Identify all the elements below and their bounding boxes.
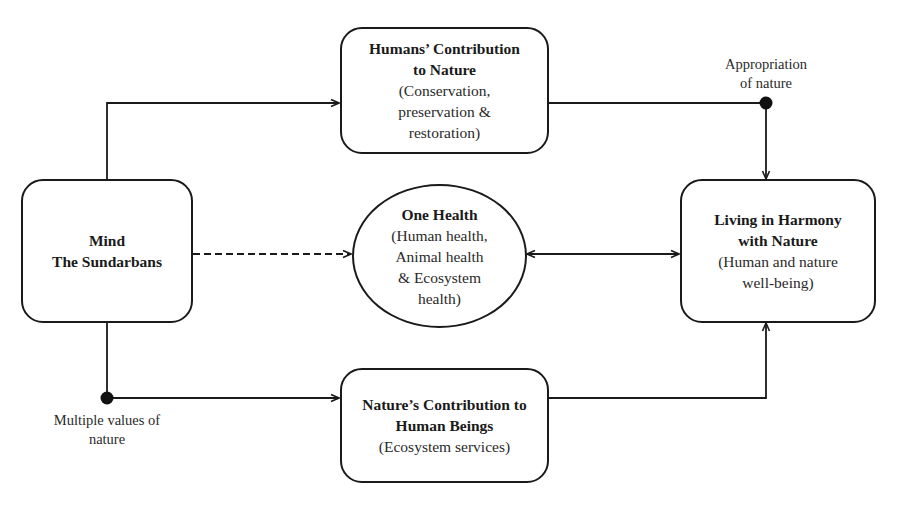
label-appropriation-of-nature: Appropriation of nature [706, 55, 826, 93]
node-subtitle-line: restoration) [409, 122, 480, 143]
node-subtitle-line: (Human health, [391, 225, 487, 246]
edge-natures-contribution-to-living-harmony [549, 323, 766, 398]
node-title-line: Nature’s Contribution to [362, 394, 526, 415]
edge-mind-to-humans-contribution [107, 103, 339, 180]
node-title-line: to Nature [413, 59, 476, 80]
label-line: Appropriation [706, 55, 826, 74]
node-title-line: Human Beings [396, 415, 494, 436]
node-subtitle-line: & Ecosystem [398, 267, 481, 288]
node-natures-contribution-to-human-beings: Nature’s Contribution to Human Beings (E… [340, 368, 549, 483]
node-title-line: Mind [89, 230, 125, 251]
label-multiple-values-of-nature: Multiple values of nature [37, 411, 177, 449]
node-subtitle-line: (Ecosystem services) [379, 436, 510, 457]
node-subtitle-line: (Human and nature [718, 251, 838, 272]
edge-humans-contribution-to-living-harmony [549, 103, 766, 179]
node-title-line: The Sundarbans [52, 251, 162, 272]
node-subtitle-line: health) [418, 288, 461, 309]
junction-dot-multiple-values [101, 392, 114, 405]
node-subtitle-line: Animal health [395, 246, 483, 267]
node-title-line: with Nature [738, 230, 817, 251]
node-one-health: One Health (Human health, Animal health … [352, 184, 527, 328]
junction-dot-appropriation [760, 97, 773, 110]
edge-mind-to-natures-contribution [107, 322, 339, 398]
node-title-line: Humans’ Contribution [369, 38, 520, 59]
label-line: of nature [706, 74, 826, 93]
node-title-line: Living in Harmony [714, 209, 841, 230]
node-subtitle-line: (Conservation, [399, 80, 491, 101]
node-humans-contribution-to-nature: Humans’ Contribution to Nature (Conserva… [340, 27, 549, 154]
node-title-line: One Health [401, 204, 477, 225]
label-line: Multiple values of [37, 411, 177, 430]
node-living-in-harmony-with-nature: Living in Harmony with Nature (Human and… [680, 179, 876, 323]
node-mind-the-sundarbans: Mind The Sundarbans [21, 179, 193, 323]
node-subtitle-line: preservation & [398, 101, 491, 122]
node-subtitle-line: well-being) [742, 272, 813, 293]
label-line: nature [37, 430, 177, 449]
